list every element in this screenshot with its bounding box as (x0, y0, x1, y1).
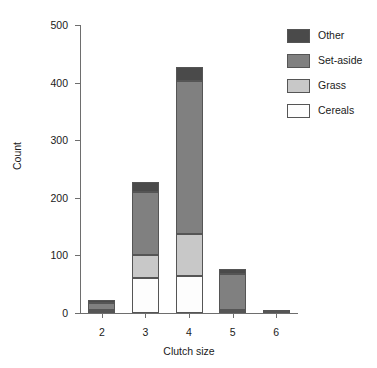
y-tick-mark (75, 83, 80, 84)
y-tick-label: 400 (30, 78, 68, 88)
legend-swatch-icon (287, 54, 310, 68)
y-axis-title: Count (11, 126, 23, 186)
legend-label: Grass (318, 78, 346, 93)
bar-segment[interactable] (219, 269, 246, 275)
bar-segment[interactable] (132, 192, 159, 255)
y-tick-label: 500 (30, 20, 68, 30)
y-tick-mark (75, 25, 80, 26)
y-tick-mark (75, 198, 80, 199)
y-tick-mark (75, 140, 80, 141)
x-tick-mark (233, 313, 234, 318)
legend-label: Other (318, 28, 344, 43)
stacked-bar-chart: 0100200300400500 23456 Count Clutch size… (0, 0, 377, 368)
bar-segment[interactable] (176, 67, 203, 81)
y-tick-mark (75, 313, 80, 314)
y-tick-label: 0 (30, 308, 68, 318)
bar-segment[interactable] (176, 234, 203, 276)
bar-segment[interactable] (132, 255, 159, 278)
y-tick-label: 300 (30, 135, 68, 145)
bar-segment[interactable] (176, 276, 203, 313)
bar-segment[interactable] (132, 278, 159, 313)
y-axis-line (80, 25, 81, 314)
x-tick-mark (145, 313, 146, 318)
bar-segment[interactable] (88, 310, 115, 312)
legend-swatch-icon (287, 104, 310, 118)
bar-segment[interactable] (88, 300, 115, 303)
bar-stack[interactable] (176, 67, 203, 313)
legend-label: Cereals (318, 103, 354, 118)
legend-swatch-icon (287, 29, 310, 43)
bar-segment[interactable] (132, 182, 159, 192)
x-tick-label: 2 (87, 327, 117, 338)
legend-swatch-icon (287, 79, 310, 93)
bar-segment[interactable] (219, 311, 246, 313)
y-tick-label: 100 (30, 250, 68, 260)
x-tick-mark (276, 313, 277, 318)
x-tick-label: 3 (130, 327, 160, 338)
bar-stack[interactable] (263, 311, 290, 313)
x-tick-label: 4 (174, 327, 204, 338)
bar-stack[interactable] (132, 182, 159, 313)
x-tick-mark (102, 313, 103, 318)
legend-label: Set-aside (318, 53, 362, 68)
bar-segment[interactable] (176, 81, 203, 233)
bar-segment[interactable] (263, 310, 290, 312)
y-tick-label: 200 (30, 193, 68, 203)
y-tick-mark (75, 255, 80, 256)
x-tick-label: 5 (218, 327, 248, 338)
bar-stack[interactable] (219, 269, 246, 313)
x-tick-label: 6 (261, 327, 291, 338)
bar-stack[interactable] (88, 300, 115, 313)
bar-segment[interactable] (88, 303, 115, 310)
x-tick-mark (189, 313, 190, 318)
bar-segment[interactable] (219, 274, 246, 310)
x-axis-title: Clutch size (80, 345, 298, 357)
